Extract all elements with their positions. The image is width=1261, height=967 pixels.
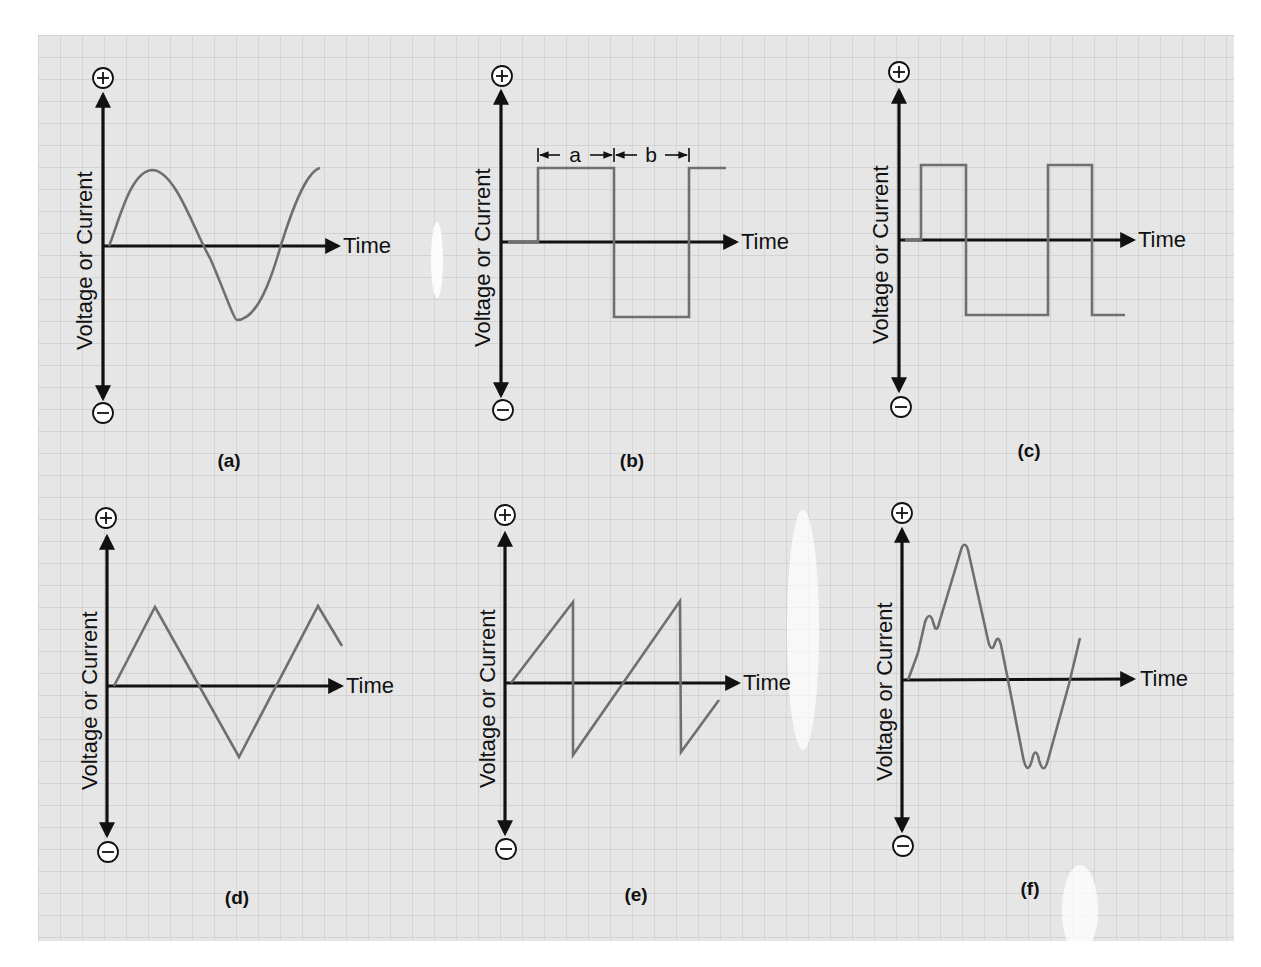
glare — [431, 222, 443, 298]
panel-label: (b) — [620, 450, 644, 471]
dimension-label-a: a — [569, 143, 581, 166]
panel-label: (f) — [1021, 878, 1040, 899]
glare — [1062, 865, 1098, 955]
y-axis-label: Voltage or Current — [475, 609, 500, 788]
negative-pole-icon — [893, 836, 913, 856]
positive-pole-icon — [889, 62, 909, 82]
x-axis-label: Time — [1140, 666, 1188, 691]
waveform-figure: Time Voltage or Current (a) a b Time Vol — [0, 0, 1261, 967]
panel-label: (d) — [225, 887, 249, 908]
x-axis-label: Time — [1138, 227, 1186, 252]
positive-pole-icon — [892, 503, 912, 523]
x-axis-label: Time — [743, 670, 791, 695]
y-axis-label: Voltage or Current — [872, 602, 897, 781]
x-axis — [902, 679, 1133, 680]
y-axis-label: Voltage or Current — [470, 168, 495, 347]
x-axis-label: Time — [343, 233, 391, 258]
negative-pole-icon — [93, 403, 113, 423]
x-axis-label: Time — [346, 673, 394, 698]
glare — [787, 510, 819, 750]
negative-pole-icon — [496, 839, 516, 859]
y-axis-label: Voltage or Current — [72, 171, 97, 350]
positive-pole-icon — [495, 505, 515, 525]
panel-label: (e) — [624, 884, 647, 905]
positive-pole-icon — [93, 68, 113, 88]
negative-pole-icon — [98, 842, 118, 862]
y-axis-label: Voltage or Current — [77, 611, 102, 790]
y-axis-label: Voltage or Current — [868, 165, 893, 344]
positive-pole-icon — [492, 66, 512, 86]
panel-label: (c) — [1017, 440, 1040, 461]
dimension-label-b: b — [645, 143, 657, 166]
x-axis-label: Time — [741, 229, 789, 254]
panel-label: (a) — [217, 450, 240, 471]
negative-pole-icon — [891, 397, 911, 417]
grid-lines — [38, 35, 1234, 941]
positive-pole-icon — [96, 508, 116, 528]
negative-pole-icon — [493, 400, 513, 420]
